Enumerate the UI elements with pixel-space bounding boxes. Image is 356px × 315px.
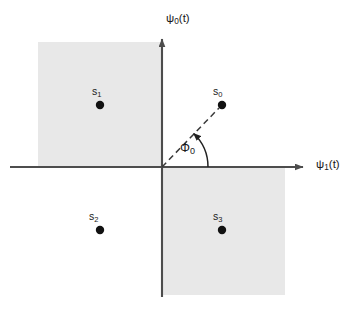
signal-point-s0-label: s0 — [213, 86, 222, 98]
vertical-axis-label-symbol: ψ — [166, 12, 174, 24]
constellation-figure: ψ0(t) ψ1(t) s0 s1 s2 s3 Φ0 — [0, 0, 356, 315]
signal-point-s1 — [96, 101, 104, 109]
horizontal-axis-label-suffix: (t) — [329, 158, 340, 170]
signal-point-s2-label: s2 — [89, 211, 98, 223]
signal-point-s0-label-subscript: 0 — [218, 90, 222, 99]
vertical-axis-label: ψ0(t) — [166, 13, 190, 26]
phase-angle-label-symbol: Φ — [180, 141, 190, 155]
vertical-axis-label-suffix: (t) — [179, 12, 190, 24]
signal-point-s0 — [218, 101, 226, 109]
signal-point-s1-label: s1 — [92, 86, 101, 98]
signal-point-s3-label: s3 — [213, 211, 222, 223]
horizontal-axis-label-symbol: ψ — [316, 158, 324, 170]
signal-point-s2 — [96, 226, 104, 234]
constellation-canvas — [0, 0, 356, 315]
signal-point-s2-label-subscript: 2 — [94, 215, 98, 224]
signal-point-s1-label-subscript: 1 — [97, 90, 101, 99]
horizontal-axis-label: ψ1(t) — [316, 159, 340, 172]
s0-phasor-dashed-line — [162, 108, 219, 167]
signal-point-s3 — [218, 226, 226, 234]
phase-angle-arc — [194, 134, 208, 168]
signal-point-s3-label-subscript: 3 — [218, 215, 222, 224]
phase-angle-label-subscript: 0 — [190, 146, 195, 156]
phase-angle-label: Φ0 — [180, 142, 195, 156]
